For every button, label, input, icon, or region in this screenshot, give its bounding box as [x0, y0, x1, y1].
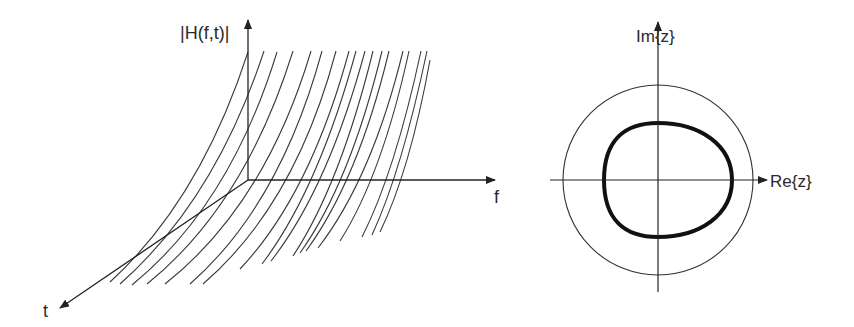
response-curves [110, 51, 430, 285]
z-plane-plot [550, 22, 767, 292]
magnitude-label: |H(f,t)| [180, 24, 229, 42]
frequency-label: f [494, 188, 499, 206]
time-axis [60, 180, 248, 308]
time-frequency-plot [60, 20, 495, 308]
real-axis-label: Re{z} [770, 173, 812, 190]
diagram-canvas [0, 0, 854, 327]
time-label: t [43, 302, 48, 320]
imag-axis-label: Im{z} [636, 28, 675, 45]
